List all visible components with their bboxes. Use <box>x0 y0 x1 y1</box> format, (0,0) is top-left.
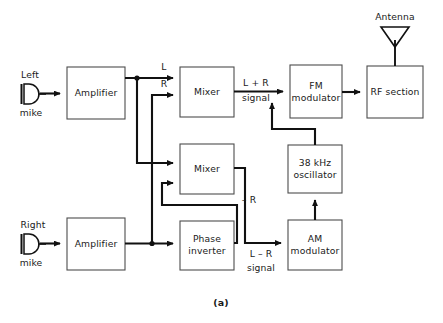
label-right-mike-bottom: mike <box>20 257 43 269</box>
label-left-mike-top: Left <box>21 69 39 81</box>
label-fm-modulator-line1: FM <box>309 80 323 92</box>
label-am-modulator-line1: AM <box>308 233 323 245</box>
label-rf-section: RF section <box>370 86 419 98</box>
label-mixer-top: Mixer <box>194 86 220 98</box>
label-signal-LminusR-sub: signal <box>247 262 275 274</box>
label-signal-R: R <box>161 78 168 90</box>
label-signal-L: L <box>161 61 166 73</box>
block-diagram-svg <box>0 0 443 323</box>
wire-R-to-mixer-top <box>152 95 173 244</box>
figure-caption: (a) <box>213 297 229 309</box>
label-oscillator-line2: oscillator <box>293 169 336 181</box>
label-signal-LminusR: L – R <box>250 248 273 260</box>
wire-L-to-mixer-bottom <box>137 78 173 163</box>
label-phase-inverter-line2: inverter <box>188 245 225 257</box>
label-signal-LplusR: L + R <box>243 77 269 89</box>
label-fm-modulator-line2: modulator <box>292 92 341 104</box>
label-amplifier-left: Amplifier <box>75 87 118 99</box>
label-amplifier-right: Amplifier <box>75 238 118 250</box>
label-antenna: Antenna <box>375 11 415 23</box>
label-mixer-bottom: Mixer <box>194 163 220 175</box>
label-left-mike-bottom: mike <box>20 107 43 119</box>
label-right-mike-top: Right <box>21 219 46 231</box>
label-phase-inverter-line1: Phase <box>193 233 221 245</box>
figure-canvas: Amplifier Mixer FM modulator RF section … <box>0 0 443 323</box>
label-oscillator-line1: 38 kHz <box>299 157 332 169</box>
label-signal-LplusR-sub: signal <box>242 92 270 104</box>
label-signal-minusR: – R <box>242 194 256 206</box>
label-am-modulator-line2: modulator <box>291 245 340 257</box>
